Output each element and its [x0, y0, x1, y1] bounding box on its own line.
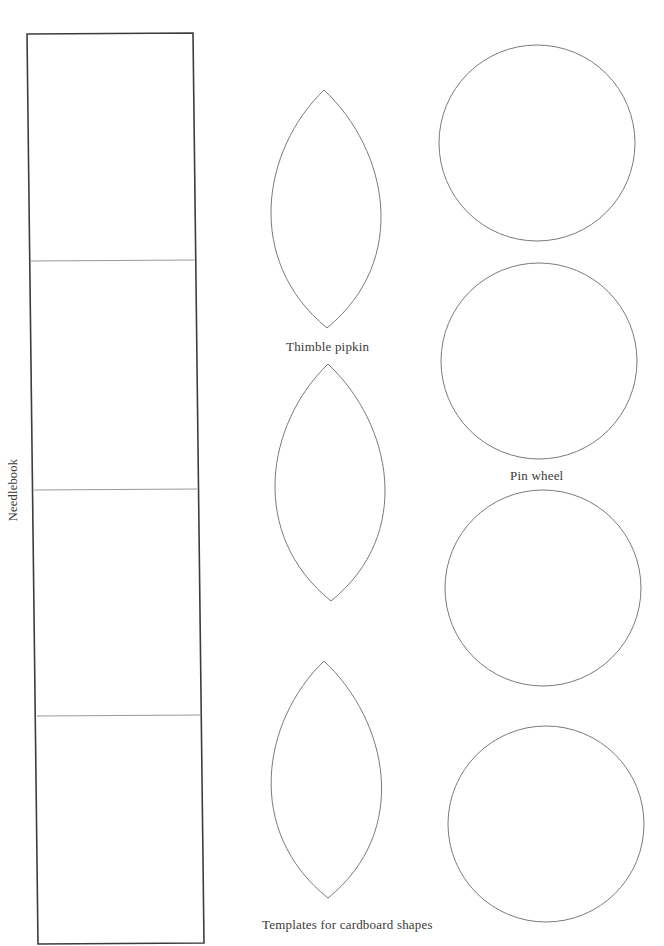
- templates-caption: Templates for cardboard shapes: [262, 917, 433, 933]
- template-sheet: Needlebook Thimble pipkin Pin wheel Temp…: [0, 0, 664, 946]
- thimble-pipkin-label: Thimble pipkin: [286, 339, 369, 355]
- pin-wheel-label: Pin wheel: [510, 468, 563, 484]
- needlebook-outline: [27, 33, 204, 944]
- leaf-shape-1: [271, 90, 381, 328]
- leaf-shape-2: [275, 364, 385, 601]
- needlebook-divider-1: [31, 260, 195, 261]
- template-artwork: [0, 0, 664, 946]
- circle-shape-3: [445, 490, 641, 686]
- needlebook-divider-3: [37, 715, 200, 716]
- leaf-shape-3: [271, 661, 381, 898]
- circle-shape-1: [439, 45, 635, 241]
- needlebook-label: Needlebook: [6, 459, 21, 521]
- circle-shape-2: [441, 263, 637, 459]
- circle-shape-4: [448, 726, 644, 922]
- needlebook-divider-2: [34, 489, 197, 490]
